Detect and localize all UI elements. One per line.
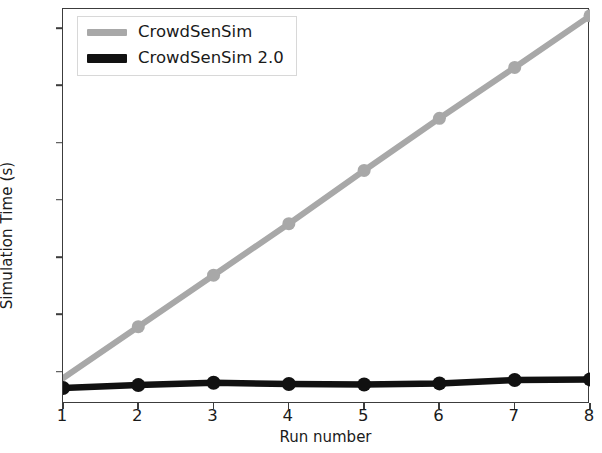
x-tick-mark	[589, 403, 591, 409]
data-point	[508, 61, 521, 74]
legend-swatch-crowdsensim-20	[87, 54, 127, 63]
data-point	[433, 112, 446, 125]
data-point	[282, 217, 295, 230]
x-tick-mark	[137, 403, 139, 409]
x-tick-label: 8	[574, 406, 602, 425]
chart-legend: CrowdSenSim CrowdSenSim 2.0	[77, 16, 297, 76]
legend-label-crowdsensim-20: CrowdSenSim 2.0	[138, 50, 284, 67]
x-tick-mark	[288, 403, 290, 409]
legend-label-crowdsensim: CrowdSenSim	[138, 24, 252, 41]
y-axis-label-text: Simulation Time (s)	[0, 162, 16, 310]
data-point	[357, 378, 371, 392]
data-point	[207, 376, 221, 390]
data-point	[131, 378, 145, 392]
y-tick-mark	[56, 371, 62, 373]
x-tick-mark	[514, 403, 516, 409]
chart-figure: Simulation Time (s) CrowdSenSim CrowdSen…	[0, 0, 602, 453]
x-tick-mark	[62, 403, 64, 409]
legend-item: CrowdSenSim	[87, 22, 284, 43]
legend-item: CrowdSenSim 2.0	[87, 48, 284, 69]
data-point	[207, 269, 220, 282]
series-2	[63, 372, 590, 395]
y-axis-label: Simulation Time (s)	[0, 0, 26, 453]
x-axis-label-text: Run number	[279, 428, 371, 446]
y-tick-mark	[56, 142, 62, 144]
x-tick-mark	[438, 403, 440, 409]
y-tick-mark	[56, 313, 62, 315]
y-tick-mark	[56, 27, 62, 29]
data-point	[583, 372, 590, 386]
data-point	[132, 320, 145, 333]
data-point	[508, 373, 522, 387]
y-tick-mark	[56, 199, 62, 201]
data-point	[432, 376, 446, 390]
x-tick-mark	[363, 403, 365, 409]
plot-area: CrowdSenSim CrowdSenSim 2.0	[62, 8, 589, 403]
data-point	[63, 381, 70, 395]
y-tick-mark	[56, 84, 62, 86]
x-axis-label: Run number	[62, 428, 589, 446]
y-tick-mark	[56, 256, 62, 258]
legend-swatch-crowdsensim	[87, 29, 127, 36]
data-point	[282, 377, 296, 391]
x-tick-mark	[213, 403, 215, 409]
data-point	[358, 164, 371, 177]
